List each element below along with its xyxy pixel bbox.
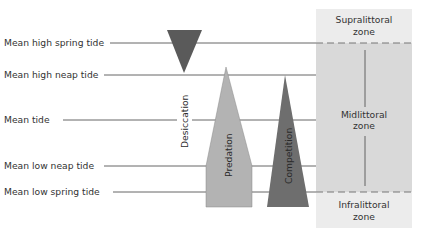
label-desiccation: Desiccation xyxy=(179,94,190,148)
label-mean-high-spring-tide: Mean high spring tide xyxy=(4,37,104,48)
zone-midlittoral-suffix: zone xyxy=(353,120,375,131)
zonation-diagram: Mean high spring tide Mean high neap tid… xyxy=(0,0,427,239)
desiccation-triangle xyxy=(167,30,202,73)
label-predation: Predation xyxy=(223,133,234,177)
zone-infralittoral-name: Infralittoral xyxy=(338,199,389,210)
zone-supralittoral-suffix: zone xyxy=(353,26,375,37)
zone-supralittoral-name: Supralittoral xyxy=(336,14,393,25)
zone-infralittoral-suffix: zone xyxy=(353,211,375,222)
zone-midlittoral-name: Midlittoral xyxy=(341,109,387,120)
label-mean-low-neap-tide: Mean low neap tide xyxy=(4,160,94,171)
label-mean-low-spring-tide: Mean low spring tide xyxy=(4,186,100,197)
tide-labels: Mean high spring tide Mean high neap tid… xyxy=(4,37,104,197)
label-competition: Competition xyxy=(283,128,294,184)
label-mean-high-neap-tide: Mean high neap tide xyxy=(4,69,99,80)
label-mean-tide: Mean tide xyxy=(4,114,50,125)
infralittoral-zone-panel xyxy=(316,192,412,228)
